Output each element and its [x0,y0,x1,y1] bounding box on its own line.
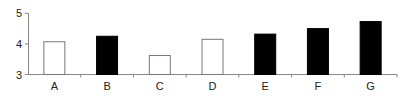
category-label-b: B [103,80,110,92]
bar-d [202,39,223,74]
bar-f [307,29,328,75]
category-label-e: E [262,80,269,92]
category-label-d: D [209,80,217,92]
bar-a [44,42,65,75]
bars [44,22,381,75]
y-tick-label: 5 [16,7,22,19]
y-tick-label: 4 [16,38,22,50]
bar-e [255,34,276,74]
category-label-a: A [51,80,59,92]
bar-chart: 345 ABCDEFG [0,0,411,98]
category-labels: ABCDEFG [51,80,375,92]
category-label-g: G [366,80,375,92]
bar-c [149,56,170,75]
y-tick-label: 3 [16,69,22,81]
category-label-f: F [315,80,322,92]
bar-g [360,22,381,75]
bar-b [97,36,118,74]
y-axis: 345 [16,7,29,80]
category-label-c: C [156,80,164,92]
